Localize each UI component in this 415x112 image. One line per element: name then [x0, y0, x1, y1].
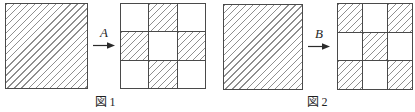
figure2-caption: 図 2: [295, 92, 339, 110]
grid-cell-plain: [178, 4, 205, 31]
right-arrow-icon: [308, 42, 330, 51]
figure2-result-grid: [337, 3, 413, 90]
grid-cell-plain: [363, 4, 387, 32]
figure2-source-square: [223, 4, 303, 90]
grid-cell-plain: [338, 33, 362, 61]
grid-cell-hatched: [149, 4, 176, 31]
figure1-caption: 図 1: [83, 92, 127, 110]
figure1-transform-arrow: A: [93, 26, 115, 50]
figure1-result-grid: [120, 3, 206, 89]
grid-cell-hatched: [388, 4, 412, 32]
grid-cell-plain: [388, 33, 412, 61]
diagram-canvas: A 図 1 B 図 2: [0, 0, 415, 112]
grid-cell-plain: [149, 32, 176, 59]
grid-cell-hatched: [363, 33, 387, 61]
right-arrow-icon: [93, 41, 115, 50]
grid-cell-hatched: [338, 61, 362, 89]
grid-cell-plain: [363, 61, 387, 89]
grid-cell-plain: [121, 4, 148, 31]
grid-cell-hatched: [178, 32, 205, 59]
grid-cell-hatched: [149, 61, 176, 88]
grid-cell-plain: [178, 61, 205, 88]
grid-cell-hatched: [388, 61, 412, 89]
grid-cell-hatched: [121, 32, 148, 59]
grid-cell-hatched: [338, 4, 362, 32]
grid-cell-plain: [121, 61, 148, 88]
figure1-arrow-label: A: [93, 26, 115, 41]
figure2-transform-arrow: B: [308, 27, 330, 51]
figure2-arrow-label: B: [308, 27, 330, 42]
figure1-source-square: [5, 3, 88, 89]
